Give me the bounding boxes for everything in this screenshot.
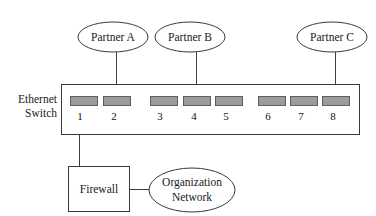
diagram-canvas: Ethernet Switch 1 2 3 4 5 6 7 8 Partner … [0,0,376,216]
switch-port-3-number: 3 [157,110,163,122]
switch-port-5[interactable] [216,97,243,106]
switch-port-4[interactable] [184,97,211,106]
switch-port-3[interactable] [151,97,178,106]
switch-port-5-number: 5 [223,110,229,122]
firewall-label: Firewall [80,183,118,195]
switch-port-6[interactable] [259,97,286,106]
switch-port-7-number: 7 [298,110,304,122]
ethernet-switch-chassis[interactable] [62,85,360,135]
partner-a-label: Partner A [91,31,135,43]
switch-port-8[interactable] [323,97,350,106]
switch-port-6-number: 6 [265,110,271,122]
partner-c-label: Partner C [310,31,354,43]
ethernet-switch-label-line2: Switch [25,107,57,119]
switch-port-4-number: 4 [191,110,197,122]
switch-port-1[interactable] [71,97,98,106]
organization-network-label-line1: Organization [162,176,222,189]
switch-port-1-number: 1 [77,110,83,122]
switch-port-2-number: 2 [111,110,117,122]
partner-b-label: Partner B [168,31,212,43]
switch-port-7[interactable] [291,97,318,106]
network-diagram: Ethernet Switch 1 2 3 4 5 6 7 8 Partner … [0,0,376,216]
switch-port-8-number: 8 [330,110,336,122]
organization-network-label-line2: Network [172,191,212,203]
ethernet-switch-label-line1: Ethernet [18,93,58,105]
switch-port-2[interactable] [104,97,131,106]
